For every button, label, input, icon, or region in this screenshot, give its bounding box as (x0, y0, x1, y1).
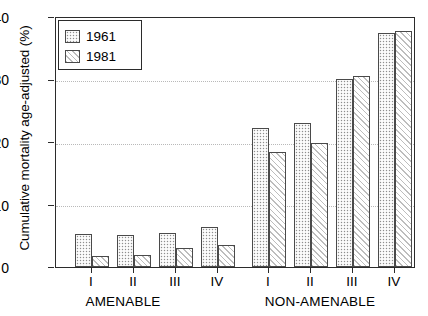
y-axis-tick-mark-10 (48, 205, 54, 206)
x-axis-tick-mark-amenable-I (91, 268, 92, 273)
group-label-non-amenable: NON-AMENABLE (220, 294, 420, 309)
y-axis-tick-mark-30 (48, 80, 54, 81)
x-axis-tick-mark-nonamenable-II (310, 268, 311, 273)
y-axis-tick-label-30: 30 (0, 73, 9, 87)
y-axis-tick-label-10: 10 (0, 199, 9, 213)
legend-label-1981: 1981 (86, 50, 116, 63)
bar-chart: Cumulative mortality age-adjusted (%) 40… (0, 0, 428, 316)
bar-nonamenable-IV-1961 (378, 33, 395, 267)
x-axis-label-amenable-I: I (76, 274, 106, 289)
bar-amenable-III-1961 (159, 233, 176, 267)
y-axis-tick-label-20: 20 (0, 136, 9, 150)
x-axis-tick-mark-nonamenable-III (352, 268, 353, 273)
legend-label-1961: 1961 (86, 30, 116, 43)
legend-swatch-1981 (65, 50, 80, 63)
bar-amenable-III-1981 (176, 248, 193, 267)
bar-amenable-IV-1961 (201, 227, 218, 267)
x-axis-tick-mark-nonamenable-IV (394, 268, 395, 273)
x-axis-tick-mark-amenable-III (175, 268, 176, 273)
y-axis-title: Cumulative mortality age-adjusted (%) (17, 8, 37, 268)
bar-amenable-II-1961 (117, 235, 134, 267)
legend: 1961 1981 (58, 20, 142, 70)
x-axis-tick-mark-amenable-II (133, 268, 134, 273)
y-axis-tick-mark-40 (48, 17, 54, 18)
bar-amenable-I-1961 (75, 234, 92, 267)
bar-nonamenable-I-1961 (252, 128, 269, 267)
bar-nonamenable-III-1961 (336, 79, 353, 267)
y-axis-tick-label-0: 0 (0, 261, 9, 275)
legend-entry-1981: 1981 (65, 46, 141, 66)
bar-nonamenable-II-1981 (311, 143, 328, 267)
bar-amenable-II-1981 (134, 255, 151, 267)
y-axis-tick-mark-20 (48, 142, 54, 143)
bar-nonamenable-IV-1981 (395, 31, 412, 267)
y-axis-tick-label-40: 40 (0, 11, 9, 25)
x-axis-label-amenable-IV: IV (202, 274, 232, 289)
x-axis-label-amenable-III: III (160, 274, 190, 289)
x-axis-label-nonamenable-III: III (337, 274, 367, 289)
legend-swatch-1961 (65, 30, 80, 43)
y-axis-tick-mark-0 (48, 267, 54, 268)
x-axis-tick-mark-nonamenable-I (268, 268, 269, 273)
bar-amenable-IV-1981 (218, 245, 235, 267)
bar-nonamenable-I-1981 (269, 152, 286, 267)
x-axis-label-nonamenable-I: I (253, 274, 283, 289)
x-axis-label-nonamenable-II: II (295, 274, 325, 289)
x-axis-label-amenable-II: II (118, 274, 148, 289)
bar-nonamenable-II-1961 (294, 123, 311, 267)
bar-nonamenable-III-1981 (353, 76, 370, 267)
x-axis-tick-mark-amenable-IV (217, 268, 218, 273)
x-axis-label-nonamenable-IV: IV (379, 274, 409, 289)
bar-amenable-I-1981 (92, 256, 109, 267)
group-label-amenable: AMENABLE (23, 294, 223, 309)
legend-entry-1961: 1961 (65, 26, 141, 46)
